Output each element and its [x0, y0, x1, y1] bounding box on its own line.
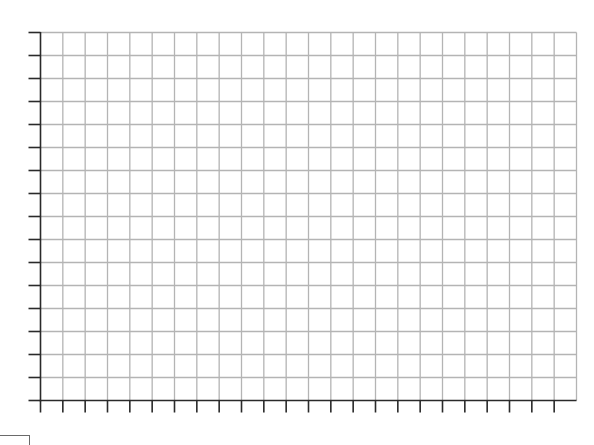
corner-box: [0, 435, 30, 445]
y-axis-ticks: [29, 33, 41, 401]
x-axis-ticks: [41, 401, 555, 413]
gridlines: [41, 33, 577, 401]
